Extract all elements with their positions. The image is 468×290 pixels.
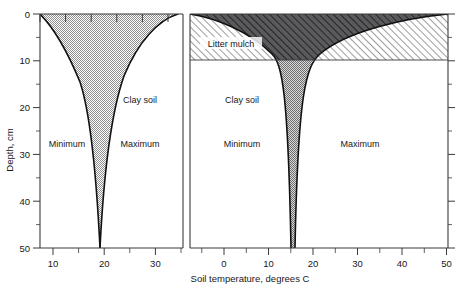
left-label-clay-soil: Clay soil (123, 95, 157, 105)
left-label-minimum: Minimum (49, 139, 86, 149)
soil-temperature-figure: 0 10 20 30 40 50 Depth, cm (0, 0, 468, 290)
figure-canvas: 0 10 20 30 40 50 Depth, cm (0, 0, 468, 290)
left-x-tick-label-10: 10 (48, 258, 59, 269)
y-tick-label-10: 10 (19, 55, 30, 66)
y-axis-title: Depth, cm (4, 128, 15, 171)
right-x-tick-label-50: 50 (441, 258, 452, 269)
right-label-clay-soil: Clay soil (225, 95, 259, 105)
right-x-tick-label-40: 40 (397, 258, 408, 269)
y-tick-label-30: 30 (19, 149, 30, 160)
left-x-tick-label-30: 30 (150, 258, 161, 269)
y-tick-label-20: 20 (19, 102, 30, 113)
y-tick-label-50: 50 (19, 243, 30, 254)
x-axis-title: Soil temperature, degrees C (191, 273, 310, 284)
y-tick-label-0: 0 (25, 9, 30, 20)
y-tick-label-40: 40 (19, 196, 30, 207)
right-x-tick-label-30: 30 (352, 258, 363, 269)
right-x-tick-label-20: 20 (308, 258, 319, 269)
right-label-maximum: Maximum (340, 139, 379, 149)
right-x-tick-label-10: 10 (263, 258, 274, 269)
right-x-tick-label-0: 0 (221, 258, 226, 269)
right-label-minimum: Minimum (224, 139, 261, 149)
left-label-maximum: Maximum (120, 139, 159, 149)
right-label-litter-mulch: Litter mulch (208, 39, 255, 49)
left-x-tick-label-20: 20 (99, 258, 110, 269)
